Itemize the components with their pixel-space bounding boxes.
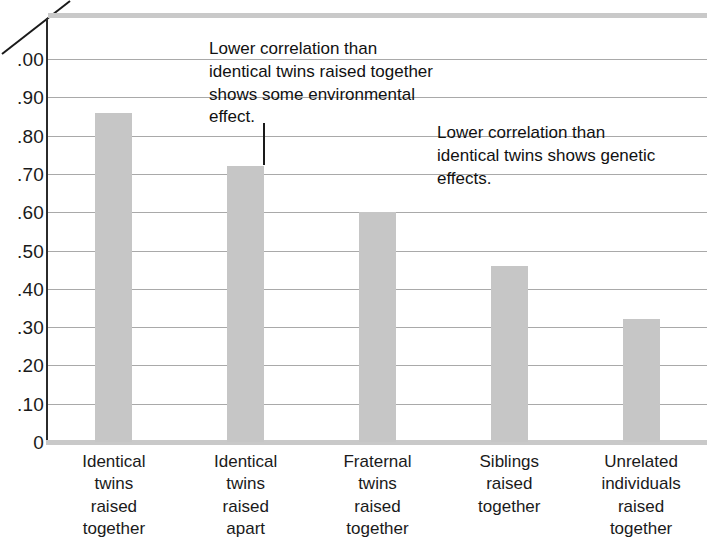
- x-axis-category-label: Identical twins raised together: [48, 451, 180, 541]
- y-axis-tick-label: .40: [0, 280, 44, 299]
- y-axis-tick-label: .80: [0, 127, 44, 146]
- y-axis-tick-label: 0: [0, 433, 44, 452]
- bar: [491, 266, 528, 442]
- x-axis-category-label: Identical twins raised apart: [180, 451, 312, 541]
- y-axis-tick-label: .70: [0, 165, 44, 184]
- y-axis-tick-label: .50: [0, 242, 44, 261]
- annotation-leader-line-vertical: [263, 123, 265, 165]
- x-axis-category-label: Siblings raised together: [443, 451, 575, 518]
- x-axis-category-label: Unrelated individuals raised together: [575, 451, 707, 541]
- y-axis-tick-labels: .00.90.80.70.60.50.40.30.20.100: [0, 0, 44, 541]
- x-axis-category-label: Fraternal twins raised together: [312, 451, 444, 541]
- y-axis-tick-label: .30: [0, 318, 44, 337]
- y-axis-tick-label: .90: [0, 88, 44, 107]
- bar: [623, 319, 660, 442]
- y-axis-tick-label: .60: [0, 203, 44, 222]
- annotation-genetic-effects: Lower correlation than identical twins s…: [437, 122, 662, 190]
- bar: [227, 166, 264, 442]
- annotation-environmental-effect: Lower correlation than identical twins r…: [209, 38, 439, 129]
- bar: [359, 212, 396, 442]
- y-axis-tick-label: .10: [0, 395, 44, 414]
- y-axis-tick-label: .00: [0, 50, 44, 69]
- y-axis-tick-label: .20: [0, 356, 44, 375]
- bar: [95, 113, 132, 442]
- correlation-bar-chart: .00.90.80.70.60.50.40.30.20.100 Identica…: [0, 0, 707, 541]
